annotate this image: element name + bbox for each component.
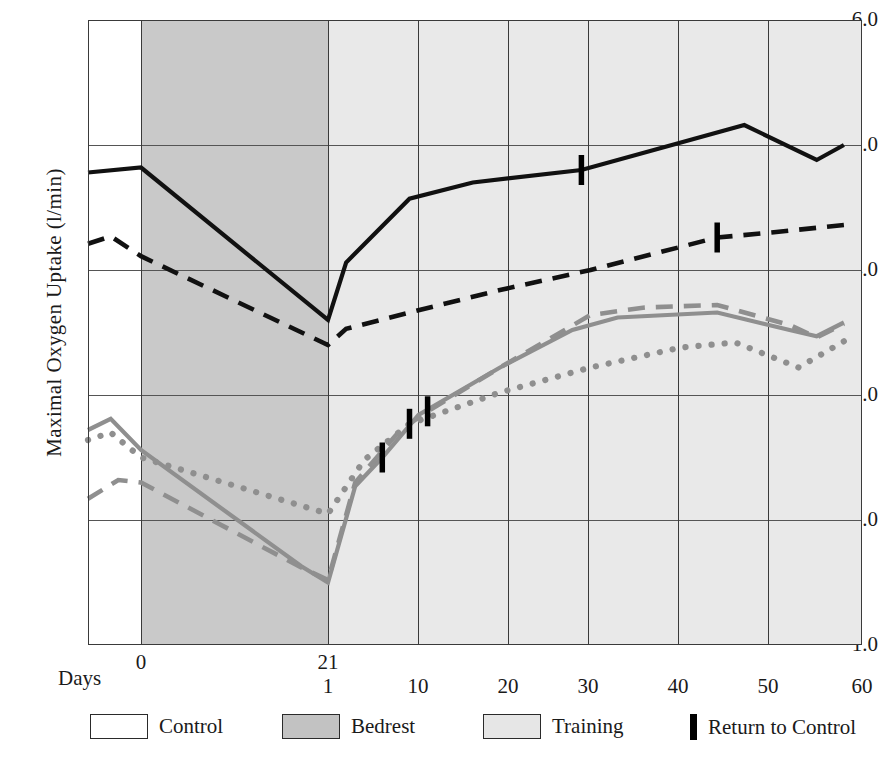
- series-line-1: [88, 225, 844, 345]
- legend-item-return: Return to Control: [690, 714, 856, 740]
- x-tick-t20: 20: [478, 676, 538, 697]
- legend-item-training: Training: [483, 714, 624, 739]
- legend-item-control: Control: [90, 714, 223, 739]
- legend-label-training: Training: [552, 714, 624, 739]
- series-line-3: [88, 305, 844, 580]
- chart-figure: Maximal Oxygen Uptake (l/min) 6.0 5.0 4.…: [0, 0, 878, 759]
- x-tick-t40: 40: [648, 676, 708, 697]
- x-tick-t10: 10: [388, 676, 448, 697]
- legend-label-bedrest: Bedrest: [351, 714, 415, 739]
- x-axis-title: Days: [58, 668, 101, 689]
- return-marker-icon: [690, 714, 697, 740]
- x-tick-t60: 60: [832, 676, 878, 697]
- series-layer: [88, 20, 862, 645]
- training-swatch-icon: [483, 714, 541, 739]
- legend: Control Bedrest Training Return to Contr…: [0, 706, 878, 756]
- legend-label-return: Return to Control: [708, 715, 856, 740]
- x-tick-t30: 30: [558, 676, 618, 697]
- control-swatch-icon: [90, 714, 148, 739]
- series-line-0: [88, 125, 844, 320]
- series-line-4: [88, 341, 844, 514]
- legend-item-bedrest: Bedrest: [282, 714, 415, 739]
- y-axis-title: Maximal Oxygen Uptake (l/min): [42, 113, 67, 513]
- x-tick-t50: 50: [738, 676, 798, 697]
- bedrest-swatch-icon: [282, 714, 340, 739]
- plot-area: [88, 20, 862, 645]
- x-tick-t1: 1: [298, 676, 358, 697]
- x-tick-0: 0: [111, 652, 171, 673]
- legend-label-control: Control: [159, 714, 223, 739]
- series-line-2: [88, 313, 844, 583]
- x-tick-21: 21: [298, 652, 358, 673]
